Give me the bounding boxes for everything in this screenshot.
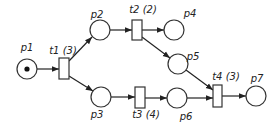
transition-label-t1: t1 (3) <box>49 45 77 56</box>
place-label-p7: p7 <box>250 73 264 84</box>
transition-t4 <box>213 85 222 107</box>
transitions-group <box>59 20 222 108</box>
place-p2 <box>90 20 110 40</box>
place-label-p3: p3 <box>90 109 104 120</box>
arc-p5-t4 <box>186 70 213 90</box>
place-label-p1: p1 <box>20 42 34 53</box>
place-p7 <box>246 86 266 106</box>
place-label-p2: p2 <box>90 9 104 20</box>
place-p3 <box>91 87 111 107</box>
place-p5 <box>168 54 188 74</box>
transition-t1 <box>59 58 69 79</box>
transition-label-t3: t3 (4) <box>132 109 160 120</box>
place-label-p4: p4 <box>183 8 197 19</box>
token-icon <box>24 66 29 71</box>
transition-t2 <box>132 20 142 40</box>
arc-t2-p5 <box>142 37 170 58</box>
petri-net-diagram: p1p2p3p4p5p6p7t1 (3)t2 (2)t3 (4)t4 (3) <box>0 0 279 128</box>
place-label-p6: p6 <box>179 111 193 122</box>
arc-t1-p3 <box>69 76 93 91</box>
place-label-p5: p5 <box>186 51 200 62</box>
transition-t3 <box>135 87 145 108</box>
place-p6 <box>167 88 187 108</box>
transition-label-t4: t4 (3) <box>212 71 240 82</box>
place-p4 <box>164 20 184 40</box>
transition-label-t2: t2 (2) <box>129 4 157 15</box>
